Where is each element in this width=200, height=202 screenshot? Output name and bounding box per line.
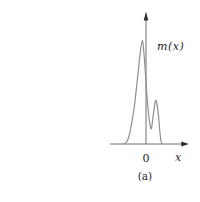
y-axis-arrow-icon <box>144 12 149 21</box>
figure-caption: (a) <box>138 170 152 182</box>
x-axis-arrow-icon <box>181 141 189 146</box>
function-label: m(x) <box>157 40 184 53</box>
mx-curve <box>124 40 162 144</box>
mx-plot: m(x) 0 x (a) <box>0 0 200 202</box>
figure-canvas: m(x) 0 x (a) <box>0 0 200 202</box>
x-axis-label: x <box>175 151 182 164</box>
origin-tick-label: 0 <box>143 152 150 165</box>
